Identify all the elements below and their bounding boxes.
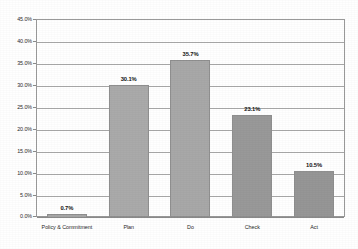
bar-slot-policy-commitment: 0.7% <box>36 19 98 217</box>
bar-value-check: 23.1% <box>244 106 260 113</box>
y-axis-label-45: 45.0% <box>0 16 32 22</box>
bar-slot-plan: 30.1% <box>98 19 160 217</box>
x-axis-label-do: Do <box>160 224 222 231</box>
y-axis-label-15: 15.0% <box>0 148 32 154</box>
bar-do[interactable] <box>170 60 210 217</box>
y-axis-label-5: 5.0% <box>0 192 32 198</box>
y-axis-label-0: 0.0% <box>0 213 32 219</box>
bar-value-act: 10.5% <box>306 162 322 169</box>
x-axis-label-plan: Plan <box>98 224 160 231</box>
bars-layer: 0.7% 30.1% 35.7% 23.1% 10.5% <box>36 19 345 217</box>
bar-value-plan: 30.1% <box>121 76 137 83</box>
bar-slot-do: 35.7% <box>160 19 222 217</box>
bar-value-do: 35.7% <box>183 51 199 58</box>
bar-policy-commitment[interactable] <box>47 214 87 217</box>
bar-slot-act: 10.5% <box>283 19 345 217</box>
y-axis-label-30: 30.0% <box>0 82 32 88</box>
x-axis-label-act: Act <box>283 224 345 231</box>
bar-chart: 45.0% 40.0% 35.0% 30.0% 25.0% 20.0% 15.0… <box>0 0 358 249</box>
bar-plan[interactable] <box>109 85 149 217</box>
bar-value-policy-commitment: 0.7% <box>60 205 73 212</box>
bar-slot-check: 23.1% <box>221 19 283 217</box>
y-axis-label-40: 40.0% <box>0 38 32 44</box>
bar-act[interactable] <box>294 171 334 217</box>
bar-check[interactable] <box>232 115 272 217</box>
y-axis-label-25: 25.0% <box>0 104 32 110</box>
x-axis-label-check: Check <box>221 224 283 231</box>
x-axis-label-policy-commitment: Policy & Commitment <box>36 224 98 231</box>
y-axis-label-20: 20.0% <box>0 126 32 132</box>
y-axis-label-10: 10.0% <box>0 170 32 176</box>
y-axis-label-35: 35.0% <box>0 60 32 66</box>
